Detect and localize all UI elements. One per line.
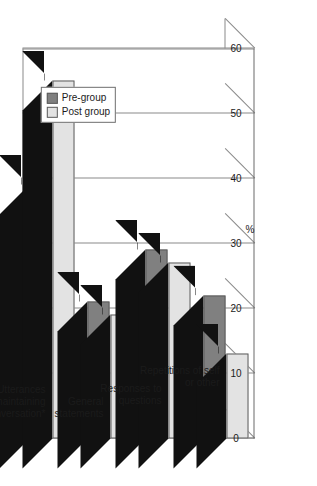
- tick-label-30: 30: [224, 238, 248, 249]
- chart-legend: Pre-group Post group: [40, 87, 115, 123]
- legend-swatch-post-group: [46, 106, 57, 117]
- category-label-line: or other: [140, 377, 220, 389]
- legend-label-pre-group: Pre-group: [61, 92, 105, 104]
- tick-label-50: 50: [224, 108, 248, 119]
- category-label-line: statements: [54, 407, 103, 419]
- tick-label-20: 20: [224, 303, 248, 314]
- chart-plot-area: 0102030405060 % Utterancesmaintainingcon…: [0, 0, 317, 486]
- tick-label-0: 0: [224, 433, 248, 444]
- tick-label-40: 40: [224, 173, 248, 184]
- bar-face: [226, 354, 248, 439]
- category-label-line: maintaining: [0, 395, 45, 407]
- legend-entry: Post group: [46, 106, 109, 118]
- category-label-line: Repetitions of self: [140, 365, 220, 377]
- category-label-line: General: [54, 395, 103, 407]
- category-label-line: Utterances: [0, 383, 45, 395]
- bar-1-3: [226, 354, 248, 439]
- legend-entry: Pre-group: [46, 92, 109, 104]
- legend-swatch-pre-group: [46, 92, 57, 103]
- tick-label-10: 10: [224, 368, 248, 379]
- chart-rotation-wrapper: 0102030405060 % Utterancesmaintainingcon…: [0, 0, 317, 486]
- category-label-line: conversation*: [0, 407, 45, 419]
- category-label: Utterancesmaintainingconversation*: [0, 383, 45, 419]
- category-label: Repetitions of selfor other: [140, 365, 220, 389]
- tick-label-60: 60: [224, 43, 248, 54]
- value-axis-title: %: [245, 223, 254, 234]
- category-label-line: questions: [100, 395, 161, 407]
- chart-figure: 0102030405060 % Utterancesmaintainingcon…: [0, 0, 317, 486]
- gridline: [22, 47, 254, 48]
- legend-label-post-group: Post group: [61, 106, 109, 118]
- value-axis-baseline: [253, 48, 254, 438]
- category-label: Generalstatements: [54, 395, 103, 419]
